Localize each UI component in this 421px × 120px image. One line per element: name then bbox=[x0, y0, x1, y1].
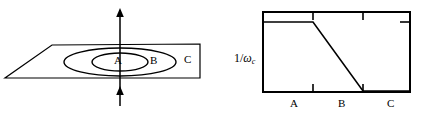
field-arrowhead-top bbox=[116, 8, 124, 17]
x-tick-label-c: C bbox=[387, 98, 394, 109]
x-tick-label-a: A bbox=[290, 98, 298, 109]
plot-frame bbox=[263, 12, 410, 92]
region-label-c: C bbox=[184, 54, 191, 65]
region-label-a: A bbox=[114, 55, 122, 66]
spatial-region-diagram: A B C bbox=[0, 0, 215, 120]
left-diagram-svg bbox=[0, 0, 215, 120]
figure-root: A B C 1/ωc A B C bbox=[0, 0, 421, 120]
omega-c-plot: 1/ωc A B C bbox=[215, 0, 421, 120]
field-arrowhead-bottom bbox=[116, 86, 124, 95]
region-label-b: B bbox=[150, 55, 157, 66]
x-tick-label-b: B bbox=[338, 98, 345, 109]
